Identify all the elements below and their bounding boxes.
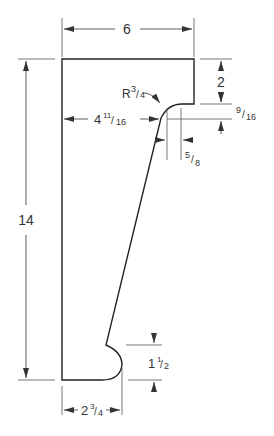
svg-text:/: /: [242, 109, 245, 120]
dim-height-label: 14: [18, 212, 34, 228]
extension-lines: [18, 18, 232, 415]
dim-base-width-label: 2 3 / 4: [81, 402, 103, 418]
svg-text:/: /: [136, 89, 139, 100]
svg-text:1: 1: [148, 356, 155, 371]
svg-text:5: 5: [185, 150, 190, 160]
dim-small-vertical-label: 9 / 16: [236, 105, 256, 122]
svg-text:/: /: [160, 359, 163, 370]
part-outline: [62, 59, 194, 380]
dim-radius-label: R 3 / 4: [122, 84, 145, 101]
dim-offset-label: 4 11 / 16: [94, 111, 126, 127]
svg-text:4: 4: [98, 408, 103, 418]
svg-text:2: 2: [164, 361, 169, 371]
svg-text:R: R: [122, 87, 131, 101]
technical-drawing: 6 14 2 R 3 / 4 4 11 / 16 9 / 16 5 / 8 1 …: [0, 0, 274, 436]
svg-text:8: 8: [195, 158, 200, 168]
svg-text:/: /: [94, 406, 97, 417]
svg-text:/: /: [191, 154, 194, 165]
svg-text:9: 9: [236, 105, 241, 115]
dim-width-label: 6: [123, 21, 131, 37]
dim-arc-height-label: 1 1 / 2: [148, 355, 169, 371]
svg-text:2: 2: [81, 403, 88, 418]
svg-text:16: 16: [246, 112, 256, 122]
dim-small-horizontal-label: 5 / 8: [185, 150, 200, 168]
svg-text:4: 4: [140, 90, 145, 100]
dim-notch-label: 2: [217, 74, 225, 90]
svg-text:16: 16: [116, 117, 126, 127]
svg-text:/: /: [111, 115, 114, 126]
svg-text:4: 4: [94, 112, 101, 127]
